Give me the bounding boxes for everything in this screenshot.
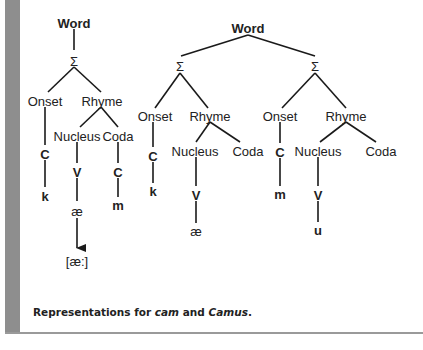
node-rhyme-1: Rhyme bbox=[189, 109, 230, 124]
segment-coda: m bbox=[112, 198, 124, 213]
caption-word-camus: Camus bbox=[208, 306, 247, 318]
caption-word-cam: cam bbox=[155, 306, 179, 318]
segment-nucleus: æ bbox=[71, 204, 83, 219]
segment-nucleus-1: æ bbox=[190, 224, 202, 239]
node-word: Word bbox=[58, 16, 91, 31]
node-nucleus-1: Nucleus bbox=[172, 144, 219, 159]
caption-suffix: . bbox=[248, 306, 252, 318]
bottom-rule bbox=[5, 332, 423, 334]
node-coda-1: Coda bbox=[232, 144, 264, 159]
slot-nucleus-v-2: V bbox=[314, 188, 323, 203]
node-onset-1: Onset bbox=[138, 109, 173, 124]
slot-onset-c-2: C bbox=[275, 145, 285, 160]
segment-nucleus-2: u bbox=[314, 223, 322, 238]
slot-nucleus-v-1: V bbox=[192, 188, 201, 203]
segment-onset-2: m bbox=[274, 187, 286, 202]
caption-prefix: Representations for bbox=[33, 306, 155, 318]
node-onset: Onset bbox=[28, 94, 63, 109]
node-onset-2: Onset bbox=[263, 109, 298, 124]
slot-coda-c: C bbox=[113, 165, 123, 180]
node-syllable: Σ bbox=[70, 54, 78, 69]
slot-nucleus-v: V bbox=[73, 165, 82, 180]
slot-onset-c: C bbox=[40, 147, 50, 162]
node-nucleus: Nucleus bbox=[54, 129, 101, 144]
node-syllable-2: Σ bbox=[311, 59, 319, 74]
slot-onset-c-1: C bbox=[148, 149, 158, 164]
segment-onset: k bbox=[41, 189, 49, 204]
node-syllable-1: Σ bbox=[176, 59, 184, 74]
syllable-tree-diagram: Word Σ Onset Rhyme Nucleus Coda C V C k … bbox=[0, 0, 423, 350]
node-rhyme: Rhyme bbox=[81, 94, 122, 109]
segment-onset-1: k bbox=[149, 184, 157, 199]
node-coda-2: Coda bbox=[365, 144, 397, 159]
caption-middle: and bbox=[179, 306, 208, 318]
node-rhyme-2: Rhyme bbox=[325, 109, 366, 124]
surface-form: [æ:] bbox=[66, 254, 88, 269]
node-coda: Coda bbox=[102, 129, 134, 144]
node-word: Word bbox=[232, 21, 265, 36]
tree-cam-labels: Word Σ Onset Rhyme Nucleus Coda C V C k … bbox=[28, 16, 135, 269]
figure-caption: Representations for cam and Camus. bbox=[33, 306, 252, 318]
tree-camus bbox=[153, 35, 376, 223]
node-nucleus-2: Nucleus bbox=[295, 144, 342, 159]
